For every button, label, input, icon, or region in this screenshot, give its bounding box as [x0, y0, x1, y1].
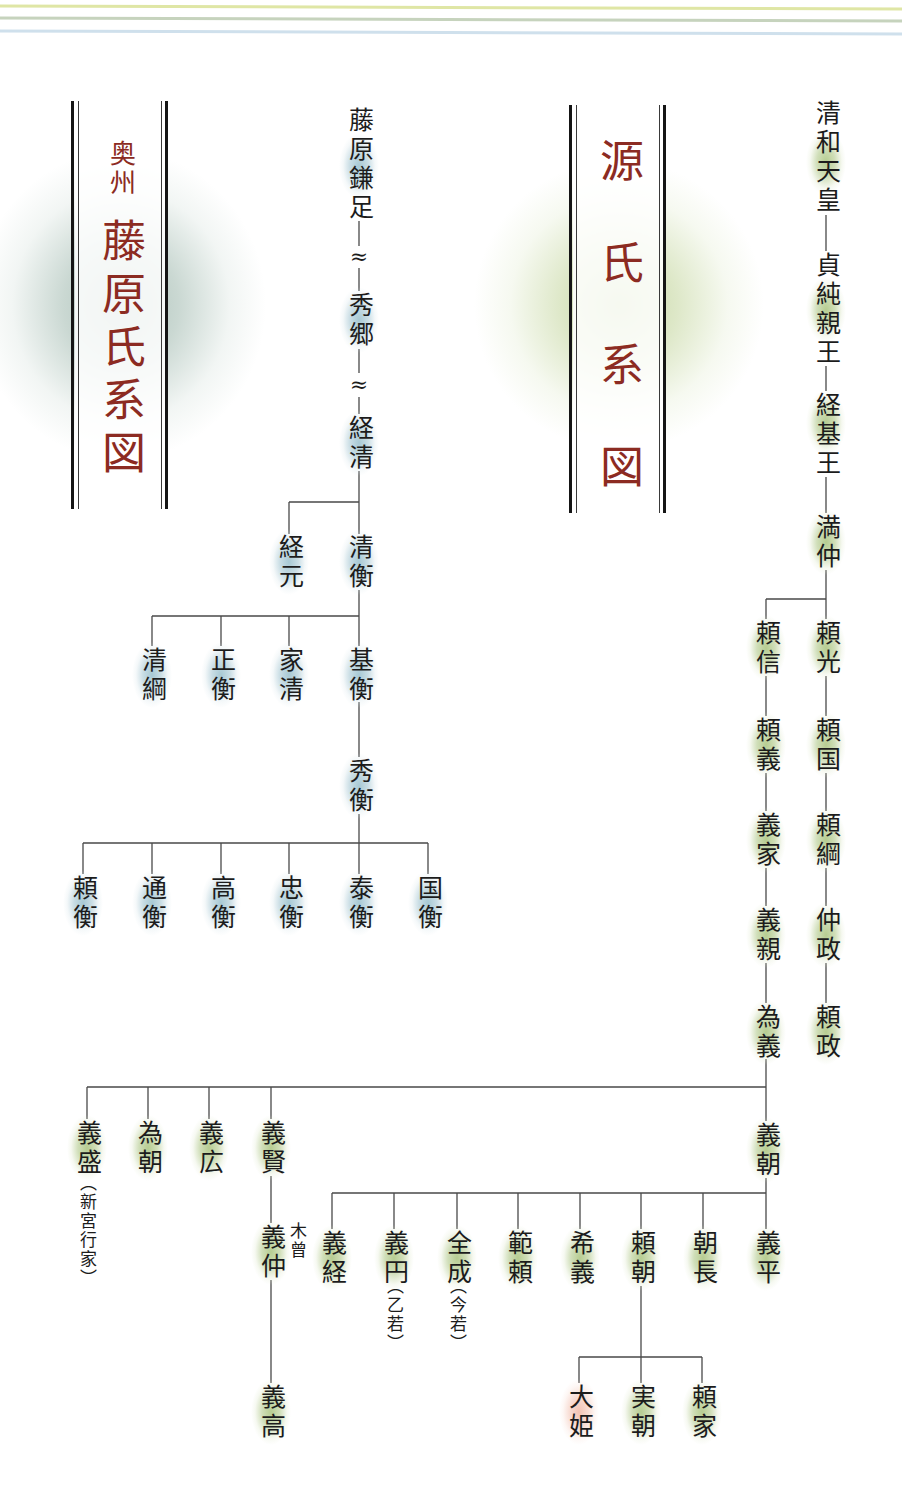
person-name: 義朝: [753, 1122, 779, 1180]
person-name: 頼政: [813, 1004, 839, 1062]
person-name: 満仲: [813, 514, 839, 572]
person-name: 家清: [276, 647, 302, 705]
annotation-yoshinaka-kiso: 木曾: [288, 1222, 306, 1260]
genealogy-page: 奥州 藤原氏系図 源氏系図 ≈ ≈ 藤原鎌足 秀郷 経清 経元 清衡 清綱 正衡…: [0, 0, 902, 1486]
person-name: 為朝: [135, 1120, 161, 1178]
person-name: 高衡: [208, 875, 234, 933]
person-name: 忠衡: [276, 875, 302, 933]
person-name: 基衡: [346, 647, 372, 705]
generation-gap-mark: ≈: [344, 374, 374, 396]
person-name: 藤原鎌足: [346, 107, 372, 223]
person-name: 義親: [753, 907, 779, 965]
person-name: 仲政: [813, 907, 839, 965]
person-name: 頼家: [689, 1384, 715, 1442]
person-name: 頼義: [753, 717, 779, 775]
annotation-zenjo-childhood-name: ︵今若︶: [448, 1277, 466, 1353]
person-name: 頼光: [813, 620, 839, 678]
person-name: 希義: [567, 1230, 593, 1288]
person-name: 秀衡: [346, 758, 372, 816]
person-name: 大姫: [566, 1384, 592, 1442]
person-name: 義高: [258, 1384, 284, 1442]
person-name: 頼衡: [70, 875, 96, 933]
person-name: 義家: [753, 812, 779, 870]
person-name: 清和天皇: [813, 100, 839, 216]
person-name: 清衡: [346, 534, 372, 592]
person-name: 貞純親王: [813, 252, 839, 368]
person-name: 朝長: [690, 1230, 716, 1288]
person-name: 義平: [753, 1230, 779, 1288]
person-name: 義賢: [258, 1120, 284, 1178]
person-name: 経清: [346, 415, 372, 473]
person-name: 頼綱: [813, 812, 839, 870]
person-name: 頼国: [813, 717, 839, 775]
person-name: 義盛: [74, 1120, 100, 1178]
person-name: 実朝: [628, 1384, 654, 1442]
annotation-yoshimori-alias: ︵新宮行家︶: [78, 1174, 96, 1288]
person-name: 正衡: [208, 647, 234, 705]
person-name: 義広: [196, 1120, 222, 1178]
person-name: 義経: [319, 1230, 345, 1288]
person-name: 範頼: [505, 1230, 531, 1288]
person-name: 秀郷: [346, 292, 372, 350]
person-name: 義仲: [258, 1224, 284, 1282]
person-name: 泰衡: [346, 875, 372, 933]
person-name: 頼信: [753, 620, 779, 678]
person-name: 通衡: [139, 875, 165, 933]
genji-connectors: [87, 215, 826, 1383]
person-name: 経元: [276, 534, 302, 592]
person-name: 国衡: [415, 875, 441, 933]
generation-gap-mark: ≈: [344, 246, 374, 268]
person-name: 経基王: [813, 392, 839, 479]
person-name: 為義: [753, 1004, 779, 1062]
person-name: 頼朝: [628, 1230, 654, 1288]
annotation-gien-childhood-name: ︵乙若︶: [385, 1277, 403, 1353]
person-name: 清綱: [139, 647, 165, 705]
